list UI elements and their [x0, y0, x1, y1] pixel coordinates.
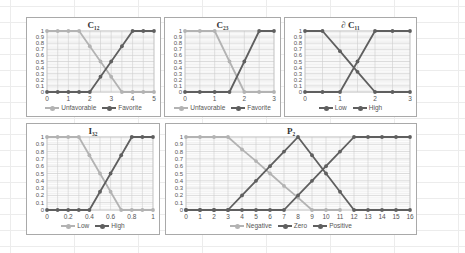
legend-label: Favorite [118, 104, 141, 111]
chart-c23: C₂₃ 00.10.20.30.40.50.60.70.80.910123Unf… [164, 17, 281, 117]
plot-area: 00.10.20.30.40.50.60.70.80.910123 [285, 18, 416, 116]
legend-item: Unfavorable [45, 104, 96, 111]
chart-p2: P₂ 00.10.20.30.40.50.60.70.80.9101234567… [165, 123, 417, 235]
svg-text:1: 1 [180, 134, 184, 140]
svg-text:0: 0 [180, 207, 184, 213]
svg-text:3: 3 [272, 95, 276, 102]
svg-text:3: 3 [226, 213, 230, 220]
legend-label: Positive [329, 222, 352, 229]
svg-text:0.9: 0.9 [294, 34, 303, 40]
chart-i32: I₃₂ 00.10.20.30.40.50.60.70.80.9100.20.4… [26, 123, 160, 235]
legend-item: Positive [313, 222, 352, 229]
svg-text:0.6: 0.6 [294, 52, 303, 58]
svg-text:0: 0 [45, 213, 49, 220]
svg-text:0.4: 0.4 [36, 65, 45, 71]
legend-swatch-icon [45, 107, 59, 109]
svg-text:1: 1 [198, 213, 202, 220]
svg-text:0.6: 0.6 [36, 52, 45, 58]
legend-label: High [111, 222, 124, 229]
svg-text:0: 0 [179, 89, 183, 95]
svg-text:8: 8 [296, 213, 300, 220]
svg-text:0.6: 0.6 [36, 163, 45, 169]
svg-text:0.8: 0.8 [36, 40, 45, 46]
svg-text:0.2: 0.2 [36, 192, 45, 198]
svg-text:0.3: 0.3 [174, 71, 183, 77]
svg-text:0.7: 0.7 [174, 46, 183, 52]
svg-text:0.2: 0.2 [174, 77, 183, 83]
legend-swatch-icon [319, 107, 333, 109]
svg-text:0.5: 0.5 [294, 59, 303, 65]
svg-text:0.2: 0.2 [294, 77, 303, 83]
svg-text:0.1: 0.1 [175, 200, 184, 206]
legend-item: Favorite [231, 104, 270, 111]
svg-text:0.4: 0.4 [85, 213, 94, 220]
svg-text:6: 6 [268, 213, 272, 220]
svg-text:13: 13 [364, 213, 372, 220]
svg-text:0.6: 0.6 [174, 52, 183, 58]
svg-text:1: 1 [213, 95, 217, 102]
svg-text:0: 0 [45, 95, 49, 102]
svg-text:3: 3 [109, 95, 113, 102]
svg-text:0.5: 0.5 [174, 59, 183, 65]
svg-text:0.8: 0.8 [175, 149, 184, 155]
chart-c12: C₁₂ 00.10.20.30.40.50.60.70.80.91012345U… [26, 17, 161, 117]
svg-text:0.7: 0.7 [36, 156, 45, 162]
legend-label: Low [77, 222, 89, 229]
svg-text:0.7: 0.7 [294, 46, 303, 52]
svg-text:0.9: 0.9 [174, 34, 183, 40]
svg-text:0.1: 0.1 [294, 83, 303, 89]
legend-item: Negative [230, 222, 272, 229]
svg-text:0.1: 0.1 [36, 200, 45, 206]
svg-text:14: 14 [378, 213, 386, 220]
legend-label: Zero [294, 222, 307, 229]
svg-text:0.4: 0.4 [294, 65, 303, 71]
svg-text:0.8: 0.8 [294, 40, 303, 46]
svg-text:2: 2 [243, 95, 247, 102]
legend-swatch-icon [231, 107, 245, 109]
legend-label: Low [335, 104, 347, 111]
svg-text:4: 4 [131, 95, 135, 102]
legend-item: Favorite [102, 104, 141, 111]
svg-text:9: 9 [310, 213, 314, 220]
svg-text:0.1: 0.1 [174, 83, 183, 89]
svg-text:1: 1 [179, 28, 183, 34]
svg-text:0.5: 0.5 [175, 171, 184, 177]
svg-text:0.9: 0.9 [175, 141, 184, 147]
chart-dc11: ∂ C₁₁ 00.10.20.30.40.50.60.70.80.910123L… [284, 17, 417, 117]
svg-text:0: 0 [184, 213, 188, 220]
legend-label: High [369, 104, 382, 111]
svg-text:0.4: 0.4 [36, 178, 45, 184]
svg-text:0.8: 0.8 [174, 40, 183, 46]
legend-swatch-icon [353, 107, 367, 109]
svg-text:1: 1 [299, 28, 303, 34]
svg-text:12: 12 [350, 213, 358, 220]
legend-swatch-icon [278, 225, 292, 227]
legend-swatch-icon [102, 107, 116, 109]
svg-text:11: 11 [337, 213, 344, 220]
svg-text:1: 1 [151, 213, 155, 220]
legend-item: Zero [278, 222, 307, 229]
legend-label: Negative [246, 222, 272, 229]
svg-text:0.9: 0.9 [36, 34, 45, 40]
plot-area: 00.10.20.30.40.50.60.70.80.9100.20.40.60… [27, 124, 159, 234]
svg-text:0.3: 0.3 [294, 71, 303, 77]
svg-text:0.6: 0.6 [175, 163, 184, 169]
svg-text:7: 7 [282, 213, 286, 220]
legend-item: High [353, 104, 382, 111]
legend-swatch-icon [174, 107, 188, 109]
svg-text:2: 2 [212, 213, 216, 220]
plot-area: 00.10.20.30.40.50.60.70.80.910123 [165, 18, 280, 116]
svg-text:10: 10 [322, 213, 330, 220]
svg-text:0.8: 0.8 [36, 149, 45, 155]
legend-item: Low [319, 104, 347, 111]
plot-area: 00.10.20.30.40.50.60.70.80.9101234567891… [166, 124, 416, 234]
legend-label: Favorite [247, 104, 270, 111]
svg-text:5: 5 [152, 95, 156, 102]
legend-item: Unfavorable [174, 104, 225, 111]
legend-swatch-icon [95, 225, 109, 227]
svg-text:0.6: 0.6 [106, 213, 115, 220]
legend-item: High [95, 222, 124, 229]
legend-item: Low [61, 222, 89, 229]
legend-swatch-icon [313, 225, 327, 227]
svg-text:16: 16 [406, 213, 414, 220]
